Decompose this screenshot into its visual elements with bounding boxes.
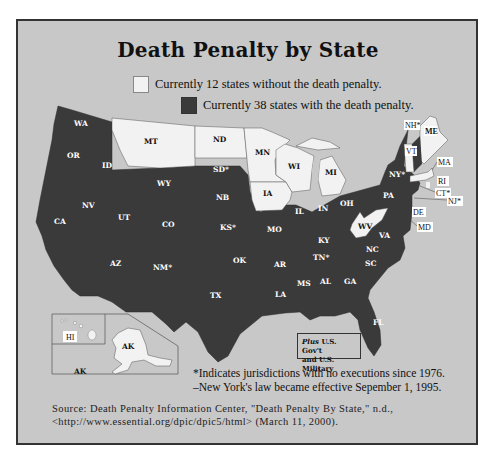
svg-text:WY: WY xyxy=(156,179,171,188)
svg-text:SC: SC xyxy=(365,259,376,268)
svg-text:RI: RI xyxy=(438,177,446,186)
svg-text:DE: DE xyxy=(413,208,424,217)
svg-text:VA: VA xyxy=(378,231,390,240)
source-line2: <http://www.essential.org/dpic/dpic5/htm… xyxy=(52,415,393,428)
footnotes: *Indicates jurisdictions with no executi… xyxy=(193,366,445,394)
svg-text:NV: NV xyxy=(82,201,95,210)
state-me xyxy=(420,116,448,164)
svg-text:KS*: KS* xyxy=(220,223,236,232)
svg-text:HI: HI xyxy=(66,333,75,342)
svg-text:TX: TX xyxy=(210,291,222,300)
svg-text:MO: MO xyxy=(267,225,282,234)
svg-text:AR: AR xyxy=(273,260,287,269)
svg-text:NC: NC xyxy=(366,245,379,254)
svg-text:PA: PA xyxy=(383,191,394,200)
svg-text:MI: MI xyxy=(325,168,337,177)
svg-text:ND: ND xyxy=(213,135,227,144)
svg-text:NB: NB xyxy=(216,193,229,202)
svg-text:KY: KY xyxy=(318,236,330,245)
note-ny: –New York's law became effective Sepembe… xyxy=(193,380,445,394)
svg-text:AK: AK xyxy=(121,342,135,351)
svg-text:MN: MN xyxy=(255,148,270,157)
ak-hi-inset: HI AK xyxy=(52,314,178,374)
svg-text:IL: IL xyxy=(295,207,305,216)
svg-text:CA: CA xyxy=(54,217,66,226)
state-ri xyxy=(426,182,430,188)
svg-text:AZ: AZ xyxy=(109,259,122,268)
svg-text:WI: WI xyxy=(287,162,300,171)
svg-text:FL: FL xyxy=(373,318,384,327)
source-line1: Source: Death Penalty Information Center… xyxy=(52,402,393,415)
svg-text:ID: ID xyxy=(102,161,113,170)
svg-text:CO: CO xyxy=(162,220,175,229)
svg-text:ME: ME xyxy=(425,127,438,136)
svg-text:TN*: TN* xyxy=(313,253,329,262)
svg-text:WV: WV xyxy=(357,222,372,231)
svg-text:MT: MT xyxy=(144,137,158,146)
svg-text:NJ*: NJ* xyxy=(448,197,461,206)
svg-text:AK: AK xyxy=(73,367,87,376)
svg-text:NM*: NM* xyxy=(153,263,172,272)
svg-text:IA: IA xyxy=(263,189,273,198)
svg-text:UT: UT xyxy=(118,213,131,222)
svg-text:SD*: SD* xyxy=(213,165,229,174)
svg-text:OR: OR xyxy=(67,151,81,160)
svg-text:NY*: NY* xyxy=(389,170,405,179)
svg-text:GA: GA xyxy=(344,277,356,286)
svg-text:WA: WA xyxy=(73,119,88,128)
svg-text:NH*: NH* xyxy=(405,121,421,130)
svg-text:OH: OH xyxy=(340,199,354,208)
note-asterisk: *Indicates jurisdictions with no executi… xyxy=(193,366,445,380)
source-citation: Source: Death Penalty Information Center… xyxy=(52,402,393,428)
svg-text:AL: AL xyxy=(319,277,332,286)
plus-label: Plus xyxy=(302,337,319,346)
svg-text:MA: MA xyxy=(438,158,451,167)
svg-text:VT: VT xyxy=(406,147,417,156)
svg-text:OK: OK xyxy=(233,256,247,265)
svg-text:MD: MD xyxy=(418,223,431,232)
us-govt-military-box: Plus U.S. Gov't and U.S. Military xyxy=(297,333,361,359)
svg-text:LA: LA xyxy=(275,290,286,299)
svg-text:MS: MS xyxy=(297,279,311,288)
svg-text:IN: IN xyxy=(318,204,329,213)
